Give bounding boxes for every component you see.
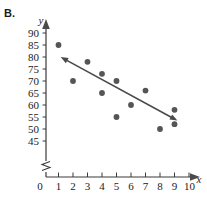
- y-tick-label: 85: [28, 39, 40, 51]
- y-tick-label: 90: [28, 27, 40, 39]
- x-tick-label: 6: [128, 180, 134, 192]
- trend-arrowhead-end: [169, 114, 177, 120]
- y-tick-label: 45: [28, 135, 40, 147]
- y-tick-labels: 90 85 80 75 70 65 60 55 50 45: [28, 27, 40, 147]
- trend-line: [65, 60, 172, 118]
- data-point: [172, 107, 178, 113]
- y-tick-label: 55: [28, 111, 40, 123]
- data-point: [99, 71, 105, 77]
- plot-canvas: B. y x 90 85: [0, 0, 207, 201]
- x-tick-marks: [59, 173, 190, 178]
- x-tick-label: 2: [70, 180, 76, 192]
- y-tick-label: 80: [28, 51, 40, 63]
- x-axis-label: x: [196, 173, 202, 185]
- scatter-plot-figure: B. y x 90 85: [0, 0, 207, 201]
- data-point: [114, 114, 120, 120]
- y-tick-label: 75: [28, 63, 40, 75]
- data-point: [128, 102, 134, 108]
- panel-label: B.: [4, 7, 15, 19]
- data-point: [157, 126, 163, 132]
- trend-arrowhead-start: [61, 57, 69, 63]
- y-tick-label: 65: [28, 87, 40, 99]
- y-tick-label: 50: [28, 123, 40, 135]
- x-tick-label: 1: [56, 180, 62, 192]
- data-point: [70, 78, 76, 84]
- x-tick-label: 8: [157, 180, 163, 192]
- data-point: [172, 121, 178, 127]
- data-point: [56, 42, 62, 48]
- data-point: [143, 88, 149, 94]
- x-tick-label: 10: [184, 180, 196, 192]
- y-tick-label: 60: [28, 99, 40, 111]
- x-tick-label: 3: [85, 180, 91, 192]
- origin-label: 0: [37, 180, 43, 192]
- x-tick-label: 7: [143, 180, 149, 192]
- y-axis-break-icon: [42, 162, 50, 171]
- x-tick-label: 9: [172, 180, 178, 192]
- trend-line-annotation: [61, 57, 178, 121]
- data-point: [85, 59, 91, 65]
- data-point: [114, 78, 120, 84]
- y-tick-label: 70: [28, 75, 40, 87]
- x-tick-label: 4: [99, 180, 105, 192]
- x-tick-labels: 1 2 3 4 5 6 7 8 9 10: [56, 180, 196, 192]
- data-point: [99, 90, 105, 96]
- x-tick-label: 5: [114, 180, 120, 192]
- y-axis-label: y: [38, 14, 44, 26]
